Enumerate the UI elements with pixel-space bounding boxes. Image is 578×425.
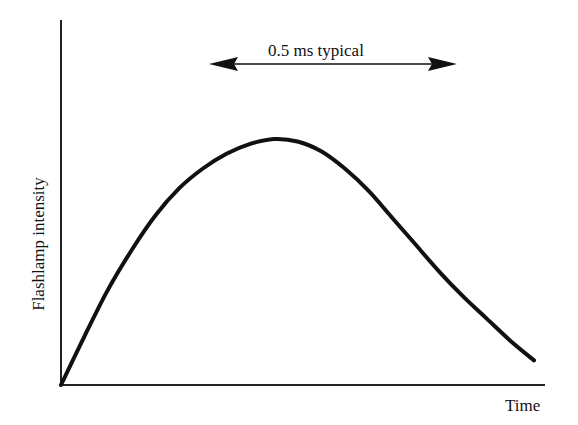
intensity-curve (61, 139, 534, 385)
arrow-left-icon (209, 57, 238, 71)
x-axis-label: Time (505, 396, 540, 416)
chart-canvas (0, 0, 578, 425)
arrow-right-icon (428, 57, 457, 71)
duration-annotation: 0.5 ms typical (268, 41, 364, 61)
y-axis-label: Flashlamp intensity (29, 177, 49, 311)
